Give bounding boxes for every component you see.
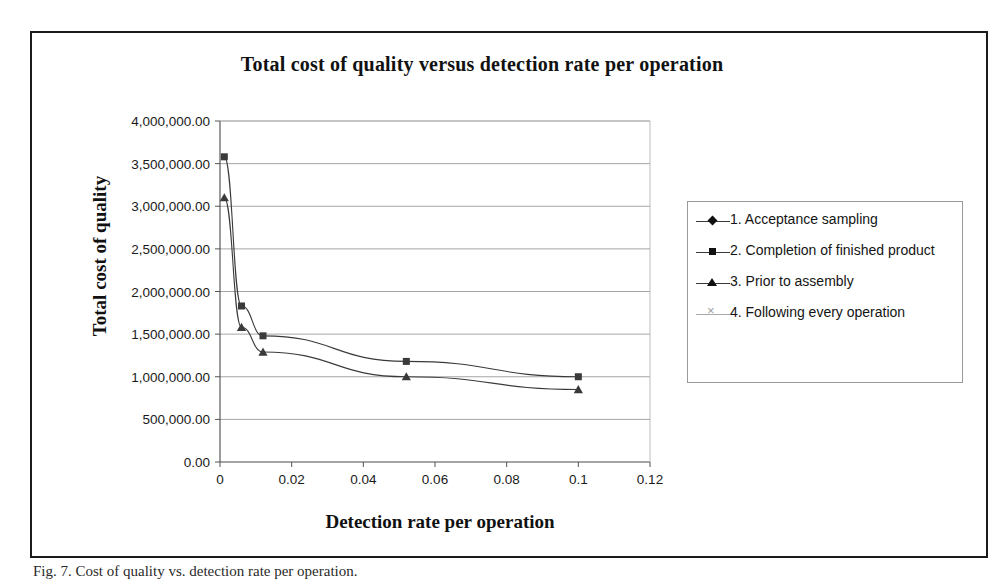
gridlines [220,121,650,419]
svg-text:0.08: 0.08 [494,472,520,487]
legend-marker-square-icon [696,245,730,261]
svg-text:3,500,000.00: 3,500,000.00 [131,157,210,172]
legend-item-3[interactable]: 3. Prior to assembly [696,274,954,292]
svg-text:500,000.00: 500,000.00 [142,412,210,427]
svg-text:0.1: 0.1 [569,472,588,487]
legend-label-3: 3. Prior to assembly [730,274,854,289]
svg-text:0.00: 0.00 [184,455,210,470]
svg-text:2,500,000.00: 2,500,000.00 [131,242,210,257]
svg-text:4,000,000.00: 4,000,000.00 [131,114,210,129]
svg-text:1,000,000.00: 1,000,000.00 [131,370,210,385]
svg-text:1,500,000.00: 1,500,000.00 [131,327,210,342]
x-axis-ticks: 00.020.040.060.080.10.12 [216,462,663,487]
svg-text:0.12: 0.12 [637,472,663,487]
legend-item-4[interactable]: × 4. Following every operation [696,305,954,323]
legend-marker-triangle-icon [696,276,730,292]
legend-label-2: 2. Completion of finished product [730,243,935,258]
svg-text:0: 0 [216,472,224,487]
legend-marker-diamond-icon [696,214,730,230]
figure-caption: Fig. 7. Cost of quality vs. detection ra… [33,563,358,580]
svg-text:2,000,000.00: 2,000,000.00 [131,285,210,300]
legend-label-4: 4. Following every operation [730,305,905,320]
y-axis-ticks: 0.00500,000.001,000,000.001,500,000.002,… [131,114,220,470]
chart-legend: 1. Acceptance sampling 2. Completion of … [687,201,963,383]
legend-item-1[interactable]: 1. Acceptance sampling [696,212,954,230]
svg-text:0.06: 0.06 [422,472,448,487]
legend-label-1: 1. Acceptance sampling [730,212,878,227]
svg-text:0.02: 0.02 [279,472,305,487]
svg-text:0.04: 0.04 [350,472,377,487]
legend-item-2[interactable]: 2. Completion of finished product [696,243,954,261]
data-series-layer [220,153,583,393]
legend-marker-cross-icon: × [696,307,730,323]
svg-text:3,000,000.00: 3,000,000.00 [131,199,210,214]
figure-frame: Total cost of quality versus detection r… [30,31,988,558]
